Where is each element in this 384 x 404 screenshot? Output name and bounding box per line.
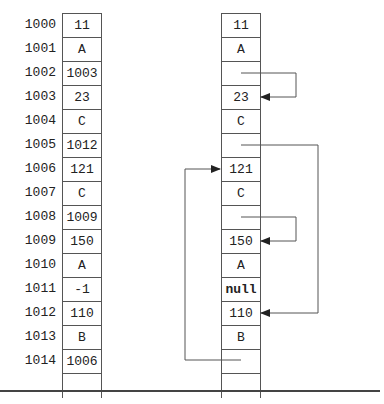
pointer-arrow-1005-to-1012 [241, 145, 318, 313]
pointer-arrow-1008-to-1009 [241, 217, 296, 241]
bottom-rule [0, 390, 380, 392]
pointer-arrows [0, 0, 384, 404]
pointer-arrow-1002-to-1003 [241, 73, 296, 97]
pointer-arrow-1014-to-1006 [185, 169, 241, 360]
